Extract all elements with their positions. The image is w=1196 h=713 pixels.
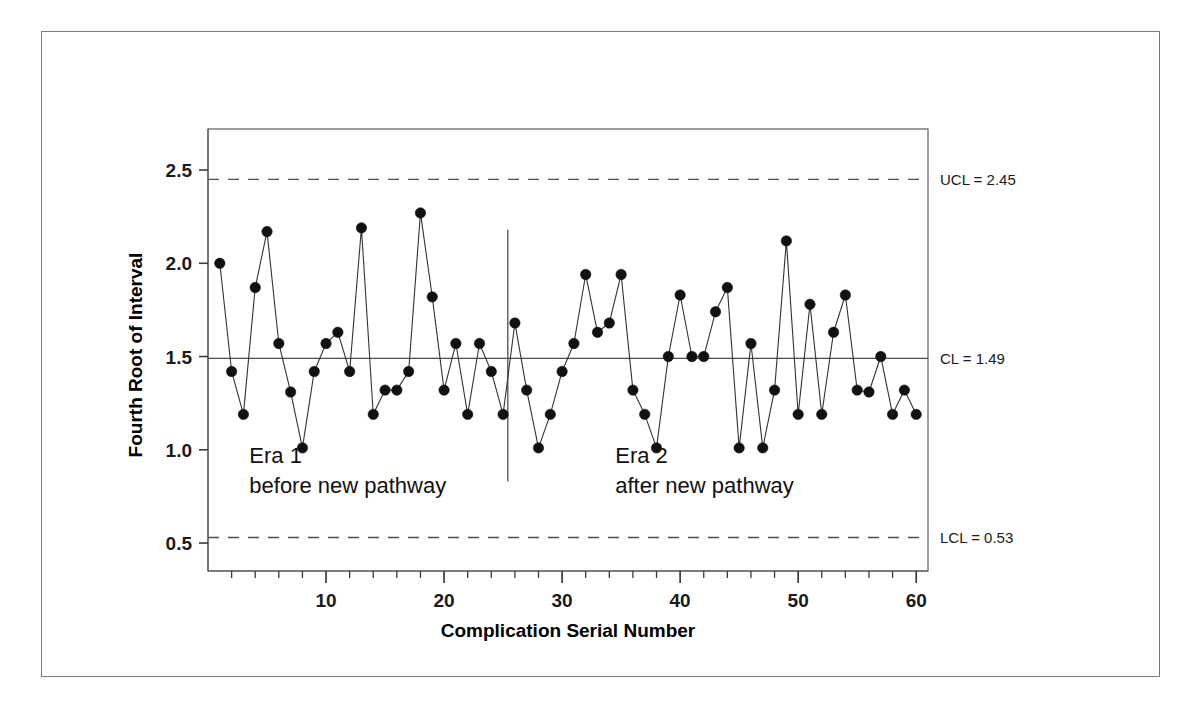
y-tick-label: 1.0: [166, 440, 192, 461]
data-point-marker: [321, 338, 331, 348]
y-axis-title: Fourth Root of Interval: [125, 253, 146, 458]
data-point-marker: [462, 409, 472, 419]
data-point-marker: [699, 351, 709, 361]
era-annotations: Era 1before new pathwayEra 2after new pa…: [249, 443, 793, 498]
data-point-marker: [710, 307, 720, 317]
data-point-marker: [510, 318, 520, 328]
control-limit-labels: UCL = 2.45CL = 1.49LCL = 0.53: [940, 171, 1016, 546]
era-1-subtitle: before new pathway: [249, 473, 446, 498]
data-point-marker: [392, 385, 402, 395]
plot-frame: [208, 129, 928, 571]
x-tick-label: 50: [788, 590, 809, 611]
data-point-marker: [616, 269, 626, 279]
data-point-marker: [439, 385, 449, 395]
data-point-marker: [675, 290, 685, 300]
data-point-marker: [309, 366, 319, 376]
data-point-marker: [238, 409, 248, 419]
data-point-marker: [486, 366, 496, 376]
data-point-marker: [722, 282, 732, 292]
era-2-subtitle: after new pathway: [615, 473, 794, 498]
data-point-marker: [746, 338, 756, 348]
data-point-marker: [876, 351, 886, 361]
data-point-marker: [887, 409, 897, 419]
data-point-marker: [215, 258, 225, 268]
data-point-marker: [545, 409, 555, 419]
data-point-marker: [415, 208, 425, 218]
x-tick-label: 40: [670, 590, 691, 611]
y-tick-label: 2.0: [166, 253, 192, 274]
x-tick-label: 60: [906, 590, 927, 611]
data-point-marker: [274, 338, 284, 348]
data-point-marker: [368, 409, 378, 419]
data-point-marker: [403, 366, 413, 376]
x-axis-title: Complication Serial Number: [441, 620, 696, 641]
data-point-marker: [781, 236, 791, 246]
x-tick-label: 10: [315, 590, 336, 611]
data-point-marker: [817, 409, 827, 419]
data-point-marker: [899, 385, 909, 395]
x-tick-label: 20: [433, 590, 454, 611]
data-point-marker: [805, 299, 815, 309]
data-point-marker: [344, 366, 354, 376]
data-point-marker: [521, 385, 531, 395]
era-2-title: Era 2: [615, 443, 668, 468]
data-point-marker: [852, 385, 862, 395]
data-point-marker: [498, 409, 508, 419]
data-point-marker: [828, 327, 838, 337]
data-point-marker: [592, 327, 602, 337]
limit-label-lcl: LCL = 0.53: [940, 529, 1013, 546]
limit-label-cl: CL = 1.49: [940, 350, 1005, 367]
data-point-marker: [758, 443, 768, 453]
data-point-marker: [474, 338, 484, 348]
data-point-marker: [604, 318, 614, 328]
y-tick-label: 0.5: [166, 533, 193, 554]
control-chart-figure: 0.51.01.52.02.5 102030405060 UCL = 2.45C…: [0, 0, 1196, 713]
data-point-marker: [840, 290, 850, 300]
data-point-marker: [734, 443, 744, 453]
data-point-marker: [533, 443, 543, 453]
data-point-marker: [356, 223, 366, 233]
data-point-marker: [262, 226, 272, 236]
data-point-marker: [380, 385, 390, 395]
data-polyline: [220, 213, 916, 448]
series-line: [220, 213, 916, 448]
y-tick-label: 1.5: [166, 347, 193, 368]
control-chart-svg: 0.51.01.52.02.5 102030405060 UCL = 2.45C…: [0, 0, 1196, 713]
data-point-marker: [640, 409, 650, 419]
data-point-marker: [333, 327, 343, 337]
data-point-marker: [557, 366, 567, 376]
data-point-marker: [581, 269, 591, 279]
data-point-marker: [864, 387, 874, 397]
era-1-title: Era 1: [249, 443, 302, 468]
data-point-marker: [911, 409, 921, 419]
data-point-marker: [285, 387, 295, 397]
data-point-marker: [663, 351, 673, 361]
figure-page: 0.51.01.52.02.5 102030405060 UCL = 2.45C…: [0, 0, 1196, 713]
limit-label-ucl: UCL = 2.45: [940, 171, 1016, 188]
y-axis: 0.51.01.52.02.5: [166, 129, 208, 571]
data-point-marker: [769, 385, 779, 395]
x-axis: 102030405060: [208, 571, 928, 611]
data-point-marker: [687, 351, 697, 361]
data-point-marker: [451, 338, 461, 348]
y-tick-label: 2.5: [166, 160, 193, 181]
x-tick-label: 30: [552, 590, 573, 611]
data-point-marker: [250, 282, 260, 292]
data-point-marker: [427, 292, 437, 302]
data-point-marker: [569, 338, 579, 348]
data-point-marker: [628, 385, 638, 395]
data-point-marker: [226, 366, 236, 376]
data-point-marker: [793, 409, 803, 419]
series-markers: [215, 208, 922, 453]
